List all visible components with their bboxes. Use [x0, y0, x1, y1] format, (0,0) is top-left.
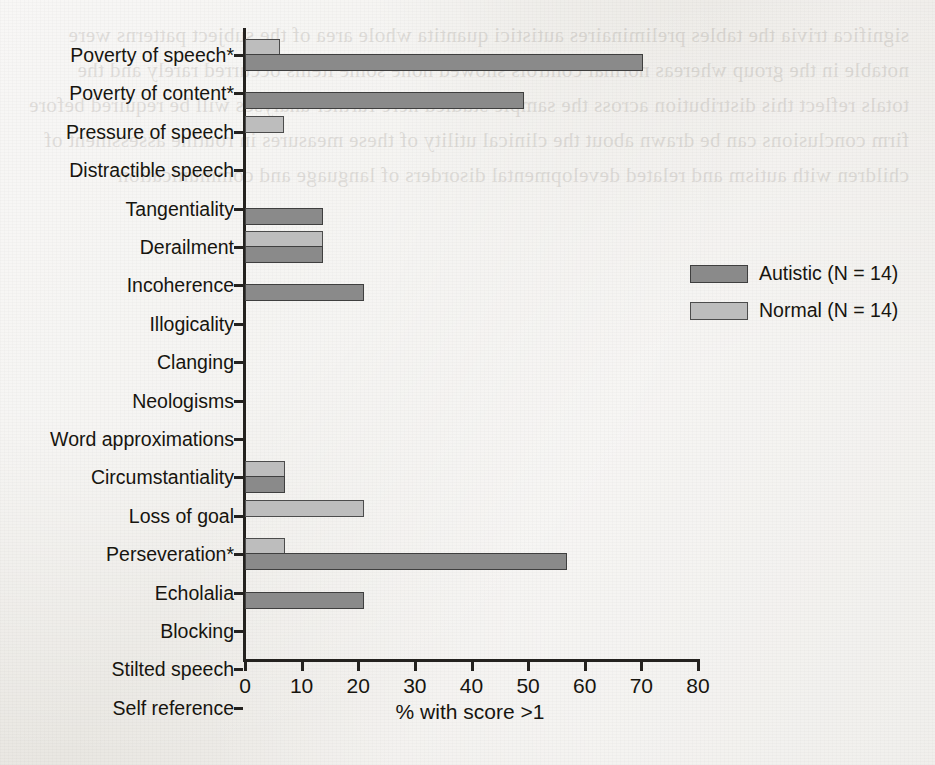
category-label: Clanging: [157, 351, 234, 374]
x-axis-title: % with score >1: [396, 700, 545, 724]
x-axis-tick: [527, 662, 530, 671]
y-axis-tick: [234, 707, 243, 710]
category-label: Neologisms: [132, 389, 234, 412]
legend-item: Normal (N = 14): [690, 299, 898, 322]
x-axis-tick-label: 60: [573, 674, 596, 698]
x-axis-tick: [471, 662, 474, 671]
y-axis-tick: [234, 131, 243, 134]
x-axis-tick: [301, 662, 304, 671]
x-axis-tick: [697, 662, 700, 671]
y-axis-tick: [234, 630, 243, 633]
y-axis-tick: [234, 169, 243, 172]
category-label: Blocking: [160, 620, 234, 643]
bar-autistic: [245, 476, 285, 493]
y-axis-tick: [234, 208, 243, 211]
x-axis-tick: [357, 662, 360, 671]
x-axis-tick-label: 0: [239, 674, 251, 698]
y-axis-tick: [234, 54, 243, 57]
x-axis-tick: [244, 662, 247, 671]
bar-autistic: [245, 92, 524, 109]
y-axis-tick: [234, 400, 243, 403]
x-axis-tick: [640, 662, 643, 671]
x-axis-tick-label: 50: [516, 674, 539, 698]
x-axis-tick: [414, 662, 417, 671]
x-axis-tick: [584, 662, 587, 671]
y-axis-tick: [234, 284, 243, 287]
category-label: Stilted speech: [112, 658, 235, 681]
category-label: Tangentiality: [126, 197, 234, 220]
y-axis-tick: [234, 323, 243, 326]
x-axis-tick-label: 80: [686, 674, 709, 698]
category-label: Illogicality: [149, 312, 234, 335]
bar-chart: Poverty of speech*Poverty of content*Pre…: [0, 0, 935, 765]
x-axis-tick-label: 20: [347, 674, 370, 698]
x-axis-tick-label: 30: [403, 674, 426, 698]
x-axis-tick-label: 40: [460, 674, 483, 698]
bar-autistic: [245, 284, 364, 301]
chart-legend: Autistic (N = 14)Normal (N = 14): [690, 262, 898, 336]
category-label: Distractible speech: [69, 159, 234, 182]
bar-autistic: [245, 592, 364, 609]
bar-autistic: [245, 54, 643, 71]
legend-swatch-autistic: [690, 265, 748, 283]
bar-normal: [245, 500, 364, 517]
y-axis-tick: [234, 668, 243, 671]
legend-label: Normal (N = 14): [759, 299, 898, 322]
category-label: Echolalia: [155, 581, 234, 604]
y-axis-tick: [234, 92, 243, 95]
bar-autistic: [245, 246, 323, 263]
category-label: Poverty of content*: [69, 82, 234, 105]
category-label: Word approximations: [50, 428, 234, 451]
y-axis-tick: [234, 476, 243, 479]
bar-normal: [245, 116, 284, 133]
legend-item: Autistic (N = 14): [690, 262, 898, 285]
y-axis-tick: [234, 438, 243, 441]
category-label: Pressure of speech: [66, 120, 234, 143]
bar-autistic: [245, 208, 323, 225]
y-axis-tick: [234, 246, 243, 249]
y-axis-tick: [234, 361, 243, 364]
legend-label: Autistic (N = 14): [759, 262, 898, 285]
legend-swatch-normal: [690, 302, 748, 320]
category-label: Loss of goal: [129, 504, 234, 527]
x-axis-tick-label: 10: [290, 674, 313, 698]
category-label: Derailment: [140, 236, 234, 259]
bar-autistic: [245, 553, 567, 570]
category-label: Perseveration*: [106, 543, 234, 566]
y-axis-tick: [234, 553, 243, 556]
category-label: Poverty of speech*: [70, 44, 234, 67]
category-label: Circumstantiality: [91, 466, 234, 489]
category-label: Self reference: [113, 696, 234, 719]
x-axis-tick-label: 70: [630, 674, 653, 698]
category-label: Incoherence: [127, 274, 234, 297]
y-axis-tick: [234, 592, 243, 595]
y-axis-tick: [234, 515, 243, 518]
